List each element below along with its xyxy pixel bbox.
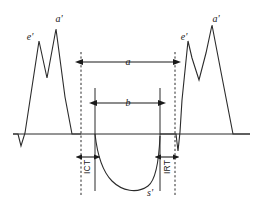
measure-a-label: a (126, 56, 131, 67)
measure-b-label: b (126, 97, 131, 108)
right-a-prime-label: a' (212, 13, 220, 24)
waveform-svg: a b ICT IRT e' a' e' a' s' (0, 0, 258, 212)
right-e-prime-label: e' (181, 31, 188, 42)
left-a-prime-label: a' (55, 13, 63, 24)
left-e-prime-label: e' (27, 31, 34, 42)
right-velocity-complex (160, 25, 250, 151)
tissue-doppler-waveform-figure: a b ICT IRT e' a' e' a' s' (0, 0, 258, 212)
s-prime-label: s' (147, 187, 154, 198)
left-velocity-complex (13, 29, 81, 146)
measure-irt-label: IRT (162, 160, 172, 174)
measure-ict-label: ICT (82, 160, 92, 174)
s-prime-trough-curve (95, 134, 160, 191)
